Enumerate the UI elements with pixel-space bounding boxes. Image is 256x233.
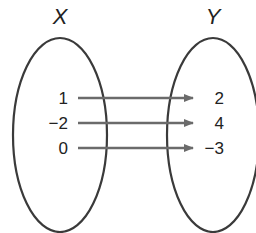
range-value: 4 [215, 114, 224, 133]
domain-value: 1 [59, 89, 68, 108]
domain-label: X [52, 4, 69, 29]
domain-value: 0 [59, 139, 68, 158]
domain-value: −2 [49, 114, 68, 133]
range-value: −3 [205, 139, 224, 158]
range-ellipse [167, 38, 256, 232]
domain-ellipse [13, 38, 107, 232]
mapping-diagram: X Y 1 −2 0 2 4 −3 [0, 0, 256, 233]
range-label: Y [206, 4, 222, 29]
range-value: 2 [215, 89, 224, 108]
